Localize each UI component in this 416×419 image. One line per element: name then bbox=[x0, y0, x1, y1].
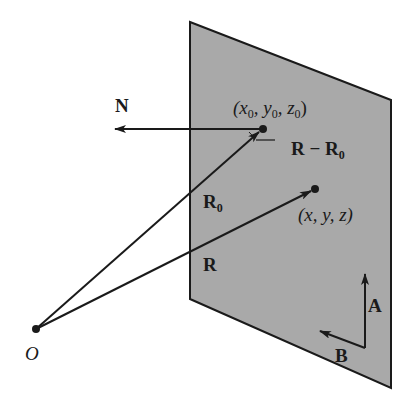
point-xyz bbox=[311, 185, 319, 193]
origin-point bbox=[32, 325, 40, 333]
r-label: R bbox=[203, 254, 217, 275]
point-xyz-label: (x, y, z) bbox=[298, 204, 353, 226]
origin-label: O bbox=[25, 343, 39, 364]
b-label: B bbox=[335, 345, 348, 366]
plane-diagram: N (x0, y0, z0) R − R0 (x, y, z) R0 R O A… bbox=[0, 0, 416, 419]
point-x0y0z0 bbox=[259, 125, 267, 133]
r-minus-r0-label: R − R0 bbox=[291, 138, 345, 162]
normal-label: N bbox=[115, 95, 129, 116]
a-label: A bbox=[368, 295, 382, 316]
